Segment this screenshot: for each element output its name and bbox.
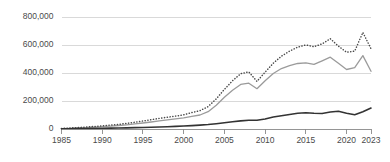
data-series [62,32,372,128]
x-tick-label: 2015 [296,135,315,145]
y-tick-label: 200,000 [23,95,54,105]
gridlines [62,17,372,101]
x-tick-label: 2000 [174,135,193,145]
y-tick-label: 600,000 [23,39,54,49]
x-tick-label: 2023 [362,135,381,145]
x-tick-label: 1990 [93,135,112,145]
x-axis-tick-labels: 198519901995200020052010201520202023 [52,135,381,145]
x-tick-label: 2020 [337,135,356,145]
x-tick-label: 2005 [215,135,234,145]
y-axis-tick-labels: 0200,000400,000600,000800,000 [23,11,54,133]
y-tick-label: 800,000 [23,11,54,21]
line-chart: 0200,000400,000600,000800,000 1985199019… [0,0,390,162]
chart-canvas: 0200,000400,000600,000800,000 1985199019… [0,0,390,162]
x-axis-tick-marks [62,129,372,134]
x-tick-label: 1985 [52,135,71,145]
x-tick-label: 2010 [256,135,275,145]
gray-middle-series [62,56,372,129]
y-tick-label: 0 [49,123,54,133]
dotted-upper-series [62,32,372,128]
x-tick-label: 1995 [133,135,152,145]
y-tick-label: 400,000 [23,67,54,77]
